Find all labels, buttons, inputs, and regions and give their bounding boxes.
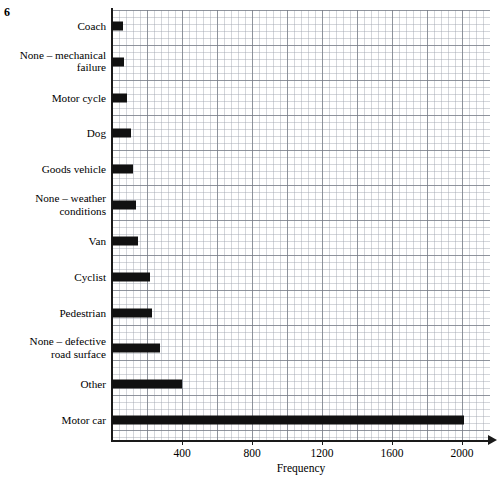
bar bbox=[112, 416, 464, 425]
x-axis-tick-label: 400 bbox=[152, 447, 212, 459]
bar bbox=[112, 344, 160, 353]
bar-category-label: Dog bbox=[0, 127, 106, 140]
x-axis-tick-label: 800 bbox=[222, 447, 282, 459]
bar-category-label: Van bbox=[0, 234, 106, 247]
x-axis-tick bbox=[392, 440, 393, 445]
bar bbox=[112, 165, 133, 174]
bar-category-label: None – mechanical failure bbox=[0, 49, 106, 74]
bar bbox=[112, 57, 124, 66]
x-axis-tick bbox=[182, 440, 183, 445]
x-axis-title: Frequency bbox=[112, 462, 490, 474]
x-axis-tick-label: 1600 bbox=[362, 447, 422, 459]
bar bbox=[112, 380, 182, 389]
bar bbox=[112, 93, 127, 102]
x-axis-tick bbox=[252, 440, 253, 445]
bar-category-label: Motor car bbox=[0, 414, 106, 427]
x-axis-tick-label: 2000 bbox=[432, 447, 492, 459]
x-axis-tick bbox=[462, 440, 463, 445]
x-axis-tick bbox=[322, 440, 323, 445]
horizontal-bar-chart: CoachNone – mechanical failureMotor cycl… bbox=[0, 0, 502, 490]
bar-category-label: Pedestrian bbox=[0, 306, 106, 319]
bar-category-label: Motor cycle bbox=[0, 91, 106, 104]
bar bbox=[112, 129, 131, 138]
bar-category-label: Coach bbox=[0, 19, 106, 32]
bar-category-label: Cyclist bbox=[0, 270, 106, 283]
bar-category-label: None – defective road surface bbox=[0, 335, 106, 360]
y-axis-line bbox=[111, 8, 113, 442]
x-axis-arrow-icon bbox=[488, 435, 497, 445]
bar bbox=[112, 236, 138, 245]
bar bbox=[112, 201, 136, 210]
plot-grid-area bbox=[112, 10, 490, 440]
x-axis-line bbox=[111, 440, 490, 442]
bar bbox=[112, 272, 150, 281]
bar-category-label: Other bbox=[0, 378, 106, 391]
bar bbox=[112, 21, 123, 30]
bar-category-label: None – weather conditions bbox=[0, 192, 106, 217]
bar bbox=[112, 308, 152, 317]
bar-category-label: Goods vehicle bbox=[0, 163, 106, 176]
x-axis-tick-label: 1200 bbox=[292, 447, 352, 459]
